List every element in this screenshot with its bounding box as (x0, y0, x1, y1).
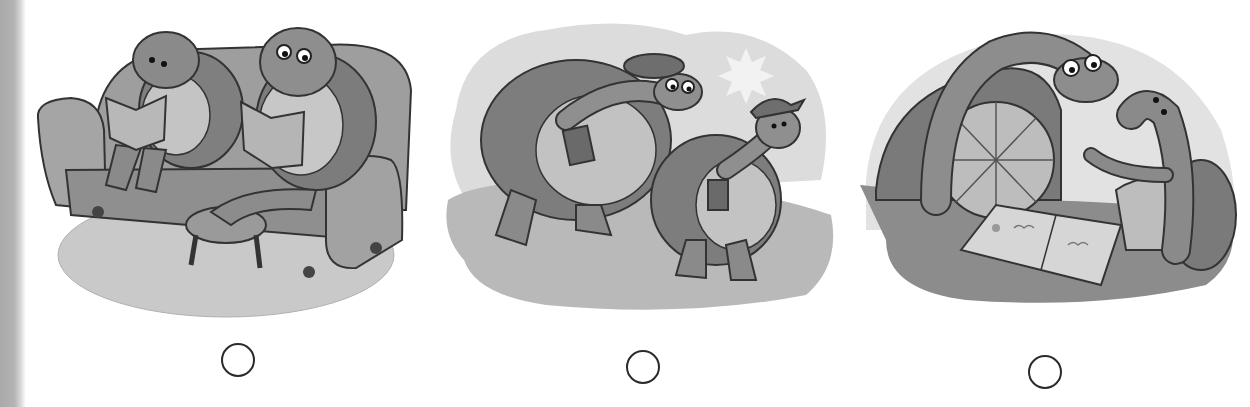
turtles-walking-with-books-illustration (426, 0, 846, 330)
option-2-panel (426, 0, 846, 407)
option-3-panel (846, 0, 1250, 407)
answer-circle-option-2[interactable] (626, 350, 660, 384)
answer-circle-option-1[interactable] (221, 343, 255, 377)
answer-circle-option-3[interactable] (1028, 355, 1062, 389)
option-1-panel (26, 0, 426, 407)
scanned-page-binding-edge (0, 0, 26, 407)
turtles-reading-on-sofa-illustration (26, 0, 426, 320)
turtles-reading-picture-book-together-illustration (846, 0, 1250, 330)
